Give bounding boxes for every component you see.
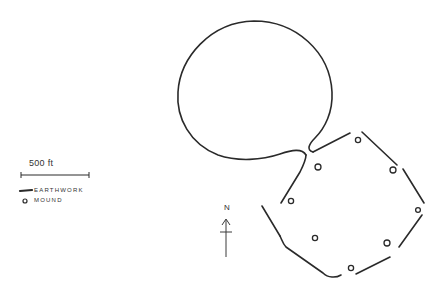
legend-mound-label: MOUND [34, 197, 63, 203]
mound-icon [348, 265, 353, 270]
mound-icon [384, 240, 390, 246]
circle-earthwork [178, 21, 332, 159]
mound-icon [390, 167, 396, 173]
mound-icon [312, 235, 317, 240]
mound-icon [288, 198, 293, 203]
earthwork-legend-icon [20, 190, 32, 191]
legend-earthwork-label: EARTHWORK [34, 187, 84, 193]
octagon-wall-sw [281, 155, 306, 203]
mound-legend-icon [23, 199, 27, 203]
octagon-wall-s [280, 236, 341, 277]
scale-bar [21, 172, 89, 178]
mound-icon [315, 164, 321, 170]
scale-label: 500 ft [29, 158, 53, 168]
octagon-wall-se [356, 257, 390, 274]
octagon-wall-n [362, 132, 397, 165]
octagon-wall-ne [403, 169, 424, 203]
mound-icon [355, 137, 360, 142]
mound-icon [416, 208, 421, 213]
site-map [0, 0, 444, 293]
north-arrow-icon [220, 219, 232, 257]
octagon-wall-nw-upper [313, 133, 350, 152]
octagon-wall-w [262, 206, 280, 236]
north-label: N [224, 203, 230, 212]
octagon-wall-e [399, 215, 422, 247]
